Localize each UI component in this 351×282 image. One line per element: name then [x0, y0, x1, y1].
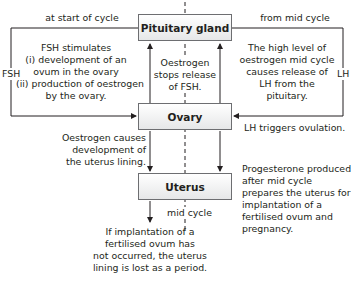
uterus-label: Uterus: [165, 181, 205, 193]
from-mid-cycle-label: from mid cycle: [255, 12, 335, 24]
high-level-oestrogen-text: The high level of oestrogen mid cycle ca…: [234, 42, 340, 102]
ovary-label: Ovary: [168, 111, 203, 123]
at-start-of-cycle-label: at start of cycle: [42, 12, 122, 24]
ovary-box: Ovary: [138, 103, 232, 130]
pituitary-gland-label: Pituitary gland: [141, 22, 229, 34]
mid-cycle-label: mid cycle: [167, 207, 212, 219]
progesterone-text: Progesterone produced after mid cycle pr…: [242, 163, 350, 235]
oestrogen-stops-text: Oestrogen stops release of FSH.: [152, 57, 218, 93]
fsh-stimulates-text: FSH stimulates (i) development of an ovu…: [16, 42, 136, 102]
if-implantation-text: If implantation of a fertilised ovum has…: [80, 226, 220, 274]
pituitary-gland-box: Pituitary gland: [138, 14, 232, 41]
oestrogen-causes-text: Oestrogen causes development of the uter…: [40, 132, 146, 168]
lh-triggers-text: LH triggers ovulation.: [244, 122, 345, 134]
uterus-box: Uterus: [138, 173, 232, 200]
